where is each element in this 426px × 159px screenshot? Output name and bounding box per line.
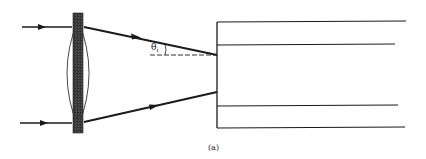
refracted-ray-bottom	[84, 92, 217, 122]
core-bottom	[217, 105, 398, 106]
incoming-ray-bottom	[20, 120, 72, 126]
converging-lens	[67, 13, 89, 133]
waveguide	[217, 21, 406, 128]
arrow-right-icon	[40, 120, 48, 126]
angle-label: θi	[151, 42, 158, 53]
cladding-bottom	[217, 127, 405, 128]
arrow-right-icon	[149, 105, 159, 111]
optics-diagram: θi (a)	[0, 0, 426, 159]
arrow-right-icon	[38, 24, 46, 30]
angle-arc	[165, 44, 166, 55]
cladding-top	[217, 21, 406, 22]
figure-caption: (a)	[208, 143, 219, 152]
lens-body	[73, 13, 83, 133]
core-top	[217, 44, 395, 45]
incoming-ray-top	[22, 24, 72, 30]
